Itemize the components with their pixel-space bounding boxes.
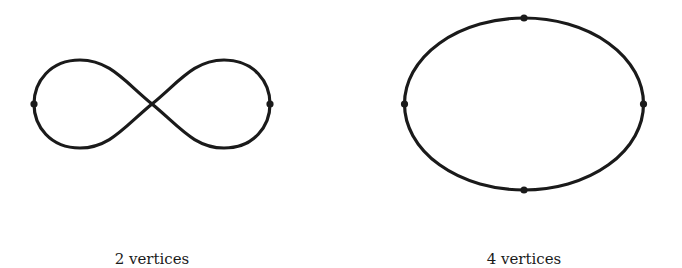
figure-eight-curve <box>34 60 270 148</box>
vertex-dot <box>520 186 527 193</box>
vertex-dot <box>266 100 273 107</box>
figure-eight-graph <box>30 60 273 148</box>
vertex-dot <box>640 100 647 107</box>
vertex-dot <box>520 14 527 21</box>
ellipse-caption: 4 vertices <box>487 250 562 268</box>
diagram-canvas <box>0 0 682 268</box>
figure-eight-caption: 2 vertices <box>115 250 190 268</box>
ellipse-curve <box>405 18 644 190</box>
vertex-dot <box>30 100 37 107</box>
vertex-dot <box>401 100 408 107</box>
ellipse-graph <box>401 14 647 193</box>
